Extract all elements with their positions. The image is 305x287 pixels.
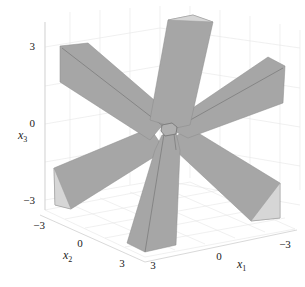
x3-label: x3	[17, 128, 27, 144]
star-polyhedron	[54, 15, 285, 252]
x1-tick-neg3: −3	[279, 238, 291, 250]
x3-tick-0: 0	[30, 117, 36, 129]
x3-tick-neg3: −3	[23, 194, 35, 206]
x1-label: x1	[236, 257, 246, 273]
x3-tick-3: 3	[30, 40, 36, 52]
x2-tick-0: 0	[77, 237, 83, 249]
plot-3d: 3 0 −3 x3 −3 0 3 x2 3 0 −3 x1	[0, 0, 305, 287]
x2-tick-3: 3	[119, 257, 125, 269]
x2-label: x2	[62, 248, 72, 264]
x2-tick-neg3: −3	[33, 219, 45, 231]
x1-tick-0: 0	[216, 250, 222, 262]
x1-tick-3: 3	[150, 259, 156, 271]
x2-axis: −3 0 3 x2	[33, 219, 125, 269]
x3-axis: 3 0 −3 x3	[17, 40, 36, 206]
